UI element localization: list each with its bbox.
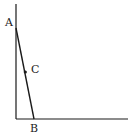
label-b: B (30, 122, 38, 135)
point-c-dot (24, 70, 27, 73)
label-c: C (31, 63, 39, 76)
label-a: A (4, 16, 14, 29)
geometry-diagram: A B C (0, 0, 133, 137)
